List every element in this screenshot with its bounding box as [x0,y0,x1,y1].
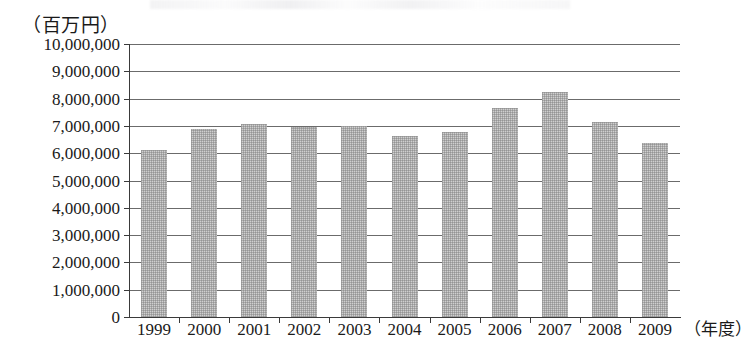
y-axis-tick [124,290,130,291]
scan-artifact [150,0,570,9]
y-axis-tick-labels: 01,000,0002,000,0003,000,0004,000,0005,0… [0,44,120,317]
y-axis-tick [124,208,130,209]
y-axis-tick-label: 1,000,000 [0,281,120,298]
bar [141,150,167,317]
y-axis-unit-caption: （百万円） [22,10,120,37]
bar [542,92,568,317]
y-axis-tick [124,71,130,72]
x-axis-tick-label: 2008 [588,320,622,340]
bar-chart: （百万円） 01,000,0002,000,0003,000,0004,000,… [0,0,748,364]
y-axis-tick [124,126,130,127]
y-axis-tick [124,262,130,263]
bar [392,136,418,317]
y-axis-tick [124,317,130,318]
x-axis-tick-label: 2007 [538,320,572,340]
gridline [129,44,680,45]
y-axis-tick-label: 7,000,000 [0,117,120,134]
y-axis-tick-label: 10,000,000 [0,36,120,53]
bar [492,108,518,317]
plot-area [129,44,680,317]
x-axis-tick-label: 2003 [337,320,371,340]
y-axis-tick [124,181,130,182]
x-axis-tick-label: 2002 [287,320,321,340]
bar [291,127,317,317]
x-axis-tick-label: 2005 [438,320,472,340]
y-axis-tick [124,44,130,45]
x-axis-tick-label: 1999 [137,320,171,340]
x-axis-line [129,317,681,318]
y-axis-tick-label: 0 [0,309,120,326]
y-axis-tick-label: 9,000,000 [0,63,120,80]
bar [592,122,618,317]
y-axis-tick-label: 4,000,000 [0,199,120,216]
x-axis-tick-label: 2004 [388,320,422,340]
x-axis-tick-labels: 1999200020012002200320042005200620072008… [129,320,680,346]
x-axis-tick-label: 2006 [488,320,522,340]
y-axis-tick [124,153,130,154]
y-axis-tick [124,99,130,100]
y-axis-tick-label: 6,000,000 [0,145,120,162]
y-axis-tick-label: 5,000,000 [0,172,120,189]
x-axis-title: （年度） [684,320,748,340]
bar [241,124,267,317]
x-axis-tick-label: 2001 [237,320,271,340]
x-axis-tick-label: 2000 [187,320,221,340]
y-axis-tick-label: 2,000,000 [0,254,120,271]
bar [191,129,217,317]
y-axis-tick [124,235,130,236]
y-axis-tick-label: 8,000,000 [0,90,120,107]
gridline [129,99,680,100]
bar [642,143,668,317]
y-axis-tick-label: 3,000,000 [0,227,120,244]
bar [341,126,367,317]
gridline [129,71,680,72]
x-axis-tick-label: 2009 [638,320,672,340]
bar [442,132,468,317]
